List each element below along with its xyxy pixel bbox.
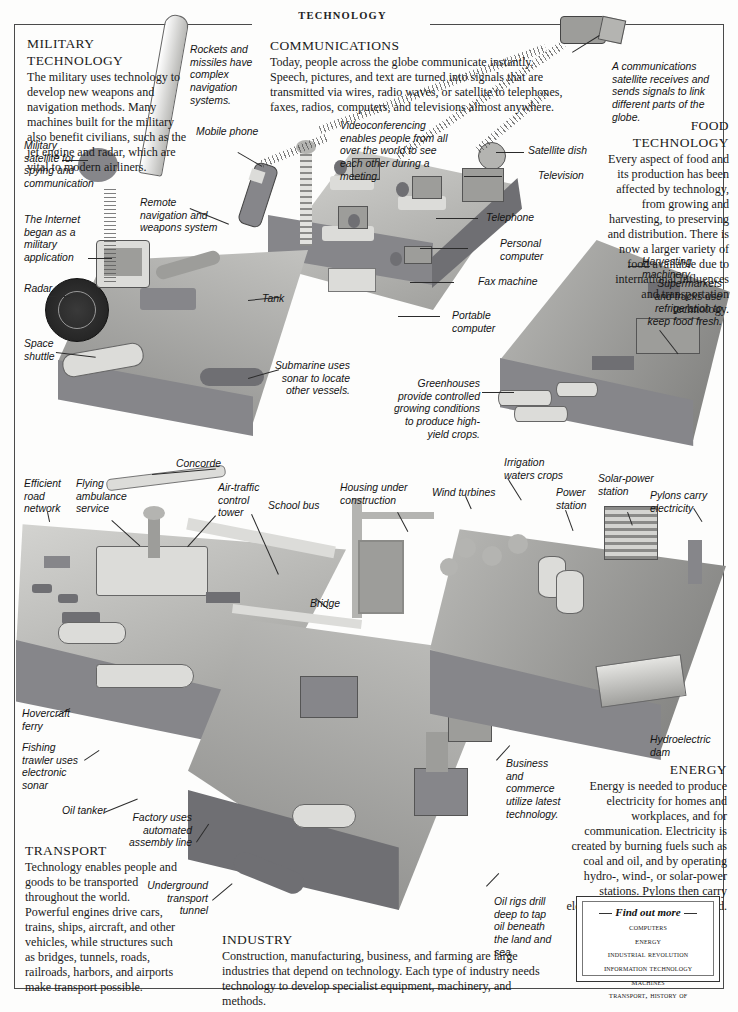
- satellite-dish-art: [478, 142, 506, 170]
- bus-art: [62, 612, 100, 624]
- leader-line: [486, 873, 499, 887]
- hovercraft-art: [58, 622, 126, 644]
- cooling-tower-1: [538, 556, 566, 598]
- page-rule-top-right: [430, 24, 724, 25]
- caption-hovercraft: Hovercraft ferry: [22, 708, 84, 733]
- leader-line: [436, 218, 478, 219]
- find-out-more-item[interactable]: TRANSPORT, HISTORY OF: [609, 988, 687, 1002]
- helicopter-art: [292, 804, 356, 828]
- leader-line: [482, 392, 514, 393]
- caption-rockets: Rockets and missiles have complex naviga…: [190, 44, 262, 107]
- caption-power-station: Power station: [556, 487, 604, 512]
- space-shuttle-art: [61, 341, 146, 379]
- caption-flying-ambulance: Flying ambulance service: [76, 478, 138, 516]
- control-tower-top: [143, 506, 165, 520]
- caption-school-bus: School bus: [268, 500, 328, 513]
- office-block: [300, 676, 358, 718]
- find-out-more-item[interactable]: MACHINES: [631, 975, 664, 989]
- caption-factory: Factory uses automated assembly line: [128, 812, 192, 850]
- desk-2: [398, 196, 446, 210]
- wind-turbine-1: [456, 538, 476, 558]
- leader-line: [410, 282, 454, 283]
- section-military-title: MILITARY TECHNOLOGY: [27, 36, 187, 70]
- caption-fax-machine: Fax machine: [478, 276, 540, 289]
- underground-tunnel-art: [231, 849, 308, 897]
- greenhouse-2: [514, 406, 568, 422]
- find-out-more-item[interactable]: ENERGY: [635, 934, 661, 948]
- jet-art: [154, 249, 221, 281]
- caption-housing: Housing under construction: [340, 482, 414, 507]
- caption-irrigation: Irrigation waters crops: [504, 457, 574, 482]
- radio-mast: [300, 150, 312, 246]
- person-2: [396, 182, 409, 197]
- comms-satellite-panel: [598, 16, 626, 44]
- transport-slab: [16, 520, 346, 730]
- communications-slab-side: [268, 215, 518, 285]
- caption-personal-computer: Personal computer: [500, 238, 562, 263]
- caption-military-satellite: Military satellite for spying and commun…: [24, 140, 86, 191]
- caption-wind-turbines: Wind turbines: [432, 487, 502, 500]
- energy-slab: [430, 520, 726, 750]
- leader-line: [496, 152, 524, 153]
- caption-remote-nav: Remote navigation and weapons system: [140, 197, 226, 235]
- page-rule-left: [14, 24, 15, 988]
- signal-wave-5: [104, 186, 116, 282]
- find-out-more-item[interactable]: INDUSTRIAL REVOLUTION: [608, 947, 688, 961]
- television-art: [462, 168, 504, 202]
- leader-line: [420, 248, 468, 249]
- monitor-internet: [96, 240, 150, 288]
- leader-line: [187, 515, 216, 547]
- oil-rig-art: [414, 768, 468, 816]
- find-out-more-item[interactable]: INFORMATION TECHNOLOGY: [604, 961, 692, 975]
- caption-videoconferencing: Videoconferencing enables people from al…: [340, 120, 452, 183]
- section-military-title-line1: MILITARY: [27, 36, 187, 53]
- caption-fishing-trawler: Fishing trawler uses electronic sonar: [22, 742, 88, 793]
- oil-rig-derrick: [426, 732, 448, 772]
- page-rule-top-left: [14, 24, 252, 25]
- signal-wave-3: [261, 134, 329, 168]
- leader-line: [88, 258, 112, 259]
- transport-slab-side: [16, 640, 346, 750]
- mast-dish: [296, 140, 316, 154]
- caption-concorde: Concorde: [176, 458, 238, 471]
- wind-turbine-2: [482, 546, 502, 566]
- person-4: [390, 252, 402, 266]
- leader-line: [212, 883, 233, 900]
- leader-line: [48, 296, 70, 297]
- caption-oil-tanker: Oil tanker: [62, 805, 124, 818]
- caption-efficient-road: Efficient road network: [24, 478, 78, 516]
- caption-bridge: Bridge: [310, 598, 354, 611]
- section-energy-body: Energy is needed to produce electricity …: [564, 779, 727, 914]
- find-out-more-title: Find out more: [599, 906, 696, 918]
- caption-oil-rigs: Oil rigs drill deep to tap oil beneath t…: [494, 896, 552, 959]
- leader-line: [111, 520, 140, 546]
- monitor-3: [338, 206, 368, 229]
- encyclopedia-page: TECHNOLOGY: [0, 0, 738, 1012]
- food-slab-side: [500, 358, 730, 446]
- mobile-phone-art: [237, 161, 280, 229]
- section-energy: ENERGY Energy is needed to produce elect…: [564, 762, 727, 914]
- oil-tanker-art: [96, 664, 194, 688]
- caption-telephone: Telephone: [486, 212, 548, 225]
- mobile-phone-screen: [248, 168, 265, 184]
- caption-satellite-dish: Satellite dish: [528, 145, 604, 158]
- section-energy-title: ENERGY: [564, 762, 727, 779]
- page-title: TECHNOLOGY: [255, 10, 430, 21]
- find-out-more-item[interactable]: COMPUTERS: [629, 920, 667, 934]
- wind-turbine-3: [508, 534, 528, 554]
- section-military-title-line2: TECHNOLOGY: [27, 53, 187, 70]
- leader-line: [565, 510, 573, 531]
- leader-line: [397, 512, 408, 532]
- wind-turbine-4: [440, 558, 458, 576]
- airport-terminal: [96, 546, 208, 596]
- school-bus-art: [206, 592, 240, 603]
- caption-portable-computer: Portable computer: [452, 310, 514, 335]
- leader-line: [398, 316, 440, 317]
- caption-comms-satellite: A communications satellite receives and …: [612, 61, 724, 124]
- caption-radar: Radar: [24, 283, 72, 296]
- industry-slab: [188, 620, 528, 910]
- tank-art: [140, 288, 196, 310]
- truck-art: [592, 356, 634, 370]
- leader-line: [627, 512, 633, 525]
- building-frame: [358, 540, 404, 614]
